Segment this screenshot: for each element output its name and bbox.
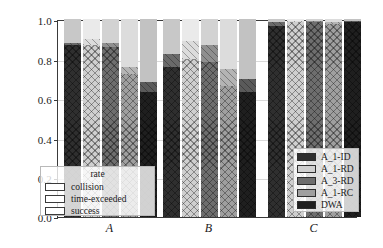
legend-rate-item[interactable]: collision [45,181,150,192]
legend-methods-rows: A_1-IDA_1-RDA_3-RDA_1-RCDWA [297,151,355,210]
legend-rate-item[interactable]: success [45,205,150,216]
chart-figure: 0.00.20.40.60.81.0 ABC rate collisiontim… [0,0,383,248]
legend-method-label: DWA [321,200,343,210]
legend-method-swatch [297,165,316,173]
legend-rate-title: rate [45,169,150,180]
legend-rate-label: collision [71,182,104,192]
legend-method-item[interactable]: A_1-RD [297,163,355,174]
legend-rate-item[interactable]: time-exceeded [45,193,150,204]
legend-method-item[interactable]: A_1-RC [297,187,355,198]
y-tick-label: 1.0 [38,16,52,27]
bar-c-a-1-id [268,19,285,217]
segment-success [268,26,285,217]
legend-method-label: A_1-RC [321,188,353,198]
y-tick-label: 0.4 [38,134,52,145]
legend-rate-label: success [71,206,100,216]
legend-method-item[interactable]: A_3-RD [297,175,355,186]
legend-method-label: A_3-RD [321,176,354,186]
legend-method-item[interactable]: A_1-ID [297,151,355,162]
legend-method-swatch [297,177,316,185]
legend-rate-swatch [45,195,65,203]
legend-method-item[interactable]: DWA [297,199,355,210]
legend-rate-label: time-exceeded [71,194,126,204]
legend-method-label: A_1-ID [321,152,351,162]
legend-method-label: A_1-RD [321,164,354,174]
y-tick-label: 0.6 [38,95,52,106]
x-axis-label-b: B [205,222,212,234]
legend-method-swatch [297,201,316,209]
x-axis-label-a: A [106,222,113,234]
legend-method-swatch [297,153,316,161]
legend-rate-swatch [45,207,65,215]
y-tick-mark [54,218,58,219]
legend-method-swatch [297,189,316,197]
legend-rate-swatch [45,183,65,191]
legend-methods[interactable]: A_1-IDA_1-RDA_3-RDA_1-RCDWA [293,148,359,212]
legend-rate[interactable]: rate collisiontime-exceededsuccess [40,166,155,216]
legend-rate-rows: collisiontime-exceededsuccess [45,181,150,216]
x-axis-label-c: C [309,222,317,234]
y-tick-label: 0.8 [38,55,52,66]
